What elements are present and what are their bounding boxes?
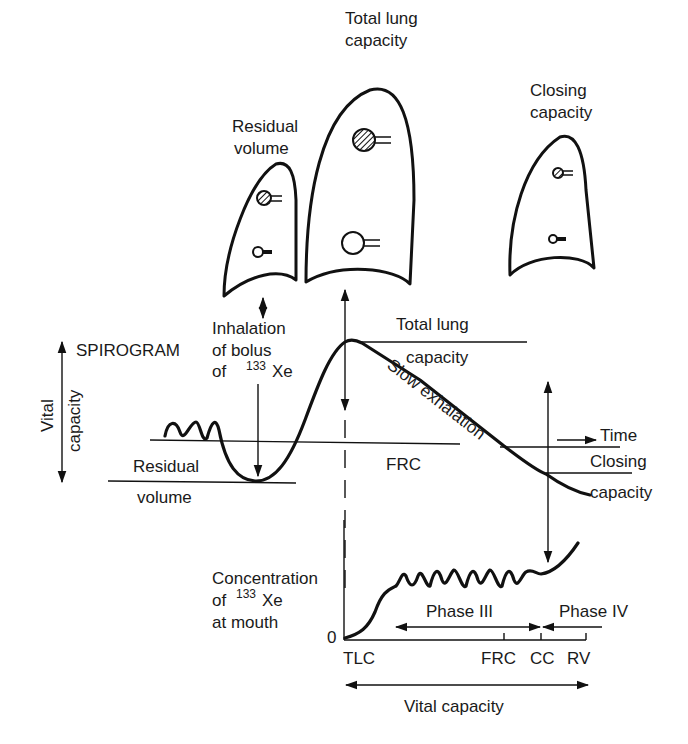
cc-label-1: Closing [590,452,647,471]
rv-label-1: Residual [133,457,199,476]
ylabel-symbol: Xe [262,591,283,610]
lung-outline-icon [510,136,594,275]
xtick-rv: RV [567,649,591,668]
alveolus-hatched-icon [353,129,375,151]
cc-label-2: capacity [590,483,653,502]
inhalation-label-3: of [212,362,226,381]
ylabel-2: of [212,591,226,610]
alveolus-hatched-icon [553,168,563,178]
xtick-tlc: TLC [343,649,375,668]
lung-cc-label-2: capacity [530,103,593,122]
lung-total-capacity: Total lung capacity [306,9,418,284]
vital-capacity-x-label: Vital capacity [404,697,504,716]
tlc-label-2: capacity [406,348,469,367]
slow-exhalation-label: Slow exhalation [384,355,490,443]
isotope-symbol: Xe [272,362,293,381]
rv-label-2: volume [137,488,192,507]
alveolus-open-icon [342,232,364,254]
lung-cc-label-1: Closing [530,81,587,100]
lung-tlc-label-1: Total lung [345,9,418,28]
inhalation-label-1: Inhalation [212,319,286,338]
single-breath-nitrogen-diagram: Residual volume Total lung capacity Clos… [0,0,688,744]
airway-closed-icon [557,237,566,241]
lung-residual-volume: Residual volume [224,117,298,296]
concentration-curve [345,543,578,638]
spirogram-title: SPIROGRAM [76,341,180,360]
spirogram: Vital capacity SPIROGRAM Inhalation of b… [38,290,653,600]
alveolus-hatched-icon [257,191,271,205]
origin-label: 0 [327,628,336,647]
inhalation-label-2: of bolus [212,341,272,360]
airway-closed-icon [263,250,272,254]
lung-rv-label-1: Residual [232,117,298,136]
lung-closing-capacity: Closing capacity [510,81,594,275]
lung-outline-icon [224,163,296,296]
xtick-cc: CC [530,649,555,668]
ylabel-1: Concentration [212,569,318,588]
vital-label-1: Vital [38,399,57,432]
vital-label-2: capacity [65,389,84,452]
phase4-label: Phase IV [559,602,629,621]
ylabel-superscript: 133 [236,587,256,601]
xtick-frc: FRC [481,649,516,668]
alveolus-small-icon [549,235,557,243]
frc-line [150,440,460,444]
lung-outline-icon [306,89,414,284]
lung-tlc-label-2: capacity [345,31,408,50]
concentration-plot: Concentration of 133 Xe at mouth 0 Phase… [212,520,629,716]
time-label: Time [600,426,637,445]
isotope-superscript: 133 [246,359,266,373]
frc-label: FRC [386,455,421,474]
ylabel-3: at mouth [212,613,278,632]
tlc-label-1: Total lung [396,315,469,334]
phase3-label: Phase III [426,602,493,621]
spirogram-curve [165,340,590,495]
alveolus-small-icon [253,247,263,257]
lung-rv-label-2: volume [234,139,289,158]
rv-line [108,481,296,483]
